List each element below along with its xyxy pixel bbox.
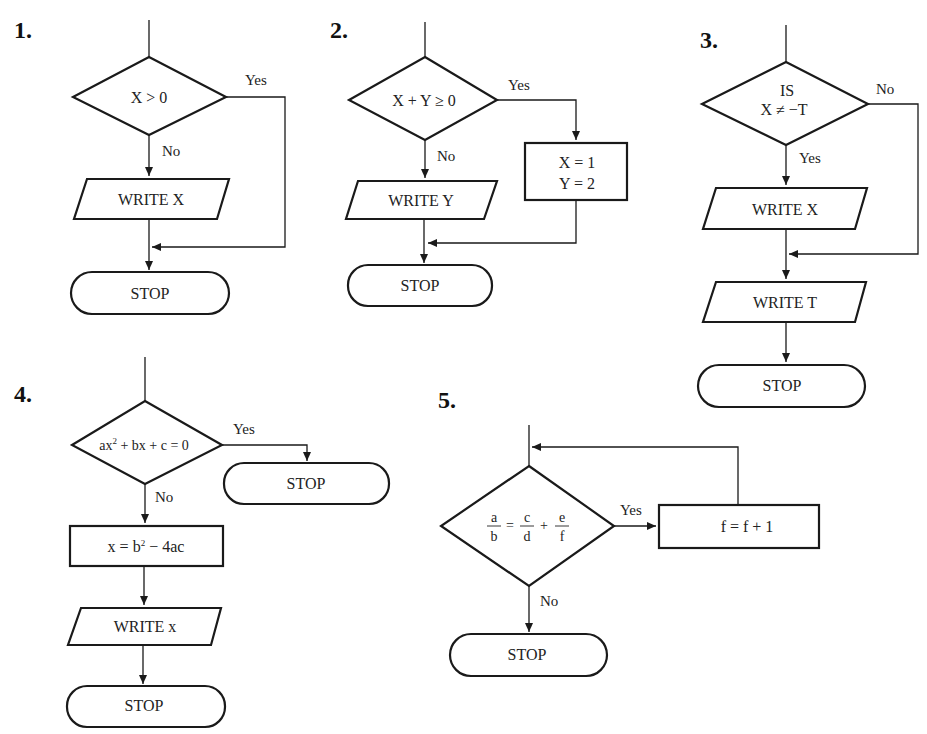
process-term: x = b [108, 538, 141, 555]
flowchart-4: 4. ax2 + bx + c = 0 Yes STOP No x = b2 −… [14, 357, 389, 727]
plus-sign: + [540, 518, 548, 533]
yes-label: Yes [620, 502, 642, 518]
io-text-2: WRITE T [753, 294, 817, 311]
process-line-2: Y = 2 [559, 175, 595, 192]
yes-connector [497, 100, 576, 140]
fraction-numerator: e [559, 510, 565, 525]
diagram-number: 3. [700, 27, 718, 53]
process-text: f = f + 1 [721, 518, 774, 535]
flowchart-5: 5. a b = c d + e f Yes f = f + 1 No STOP [438, 387, 819, 676]
flowchart-2: 2. X + Y ≥ 0 Yes X = 1 Y = 2 No WRITE Y … [330, 17, 627, 306]
flowchart-1: 1. X > 0 Yes No WRITE X STOP [14, 17, 285, 314]
diagram-number: 1. [14, 17, 32, 43]
fraction-numerator: c [524, 510, 530, 525]
flowchart-3: 3. IS X ≠ −T No Yes WRITE X WRITE T STOP [698, 25, 918, 407]
fraction-denominator: b [491, 529, 498, 544]
no-label: No [437, 148, 455, 164]
yes-connector [222, 445, 307, 461]
process-line-1: X = 1 [559, 154, 596, 171]
stop-text-yes: STOP [287, 475, 326, 492]
io-text: WRITE Y [388, 192, 454, 209]
io-text-1: WRITE X [752, 201, 819, 218]
yes-label: Yes [508, 77, 530, 93]
io-text: WRITE x [114, 618, 177, 635]
decision-text: X > 0 [131, 89, 168, 106]
fraction-denominator: f [560, 529, 565, 544]
fraction-numerator: a [491, 510, 498, 525]
fraction-denominator: d [524, 529, 531, 544]
diagram-number: 4. [14, 381, 32, 407]
io-text: WRITE X [118, 191, 185, 208]
stop-text: STOP [763, 377, 802, 394]
decision-text-line-2: X ≠ −T [760, 101, 807, 118]
decision-rest: + bx + c = 0 [117, 438, 189, 453]
no-label: No [155, 489, 173, 505]
yes-label: Yes [233, 421, 255, 437]
yes-label: Yes [799, 150, 821, 166]
process-text: x = b2 − 4ac [108, 538, 185, 555]
equals-sign: = [506, 518, 514, 533]
decision-text: X + Y ≥ 0 [392, 92, 456, 109]
no-label: No [876, 81, 894, 97]
decision-term: ax [99, 438, 112, 453]
stop-text: STOP [125, 697, 164, 714]
stop-text: STOP [508, 646, 547, 663]
flowchart-canvas: 1. X > 0 Yes No WRITE X STOP 2. X + Y ≥ … [0, 0, 927, 734]
yes-label: Yes [245, 72, 267, 88]
stop-text: STOP [131, 285, 170, 302]
decision-text-line-1: IS [780, 82, 794, 99]
no-label: No [162, 143, 180, 159]
diagram-number: 5. [438, 387, 456, 413]
stop-text: STOP [401, 277, 440, 294]
no-label: No [540, 593, 558, 609]
diagram-number: 2. [330, 17, 348, 43]
process-rest: − 4ac [145, 538, 184, 555]
